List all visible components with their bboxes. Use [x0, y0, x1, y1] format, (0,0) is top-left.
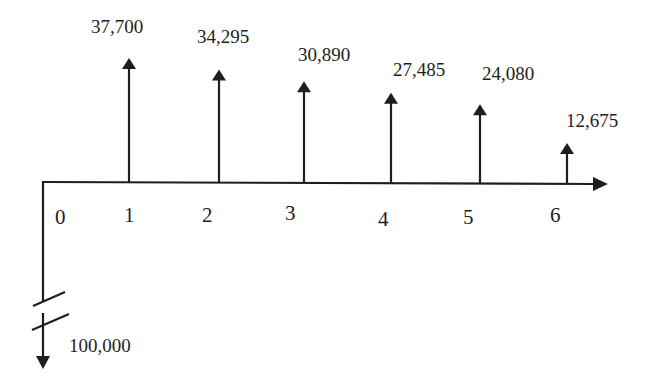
- period-label-5: 5: [463, 205, 474, 229]
- inflow-value-label-1: 37,700: [91, 16, 143, 37]
- period-labels: 0123456: [55, 201, 561, 231]
- axis-break-mark-lower: [32, 314, 69, 330]
- period-label-0: 0: [55, 205, 66, 229]
- inflow-value-label-2: 34,295: [197, 26, 249, 47]
- inflow-arrowhead-4: [384, 93, 398, 104]
- inflow-value-label-6: 12,675: [566, 110, 618, 131]
- period-label-6: 6: [550, 203, 561, 227]
- period-label-3: 3: [285, 201, 296, 225]
- inflow-value-label-5: 24,080: [482, 63, 534, 84]
- cash-flow-diagram: 100,000 0123456 37,70034,29530,89027,485…: [0, 0, 652, 392]
- inflow-arrowhead-6: [560, 143, 574, 154]
- inflow-arrowhead-1: [122, 58, 136, 69]
- inflow-value-label-3: 30,890: [298, 44, 350, 65]
- time-axis-arrowhead: [593, 177, 608, 191]
- inflow-value-label-4: 27,485: [393, 59, 445, 80]
- period-label-2: 2: [202, 203, 213, 227]
- inflow-arrowhead-2: [212, 70, 226, 81]
- inflow-arrowhead-5: [473, 104, 487, 115]
- inflow-arrowhead-3: [297, 81, 311, 92]
- axis-break-mark-upper: [33, 292, 65, 306]
- period-label-4: 4: [378, 207, 389, 231]
- inflow-arrows: 37,70034,29530,89027,48524,08012,675: [91, 16, 618, 184]
- period-label-1: 1: [124, 203, 135, 227]
- outflow-arrowhead: [36, 356, 50, 369]
- outflow-value-label: 100,000: [69, 335, 131, 356]
- time-axis: [43, 182, 596, 184]
